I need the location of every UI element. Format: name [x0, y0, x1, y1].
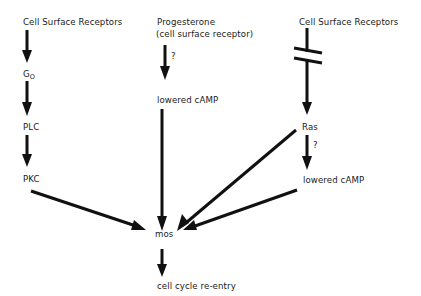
arrow-csr-to-go	[22, 30, 32, 63]
arrow-mos-to-cellcycle	[157, 249, 167, 277]
label-pkc: PKC	[23, 175, 40, 184]
arrow-pkc-to-mos	[31, 191, 146, 230]
label-progesterone: Progesterone	[157, 18, 215, 27]
arrow-camp-mid-to-mos	[157, 109, 167, 231]
label-lowered-camp-right: lowered cAMP	[303, 176, 364, 185]
arrow-progesterone-to-camp	[160, 45, 170, 80]
arrow-layer	[0, 0, 421, 296]
arrow-csr-right-to-ras-broken	[294, 28, 322, 115]
label-go-main: G	[23, 69, 30, 79]
question-mark-progesterone: ?	[171, 52, 176, 61]
question-mark-ras: ?	[313, 141, 318, 150]
label-lowered-camp-mid: lowered cAMP	[157, 96, 218, 105]
arrow-ras-to-camp-right	[302, 135, 312, 170]
arrow-go-to-plc	[22, 81, 32, 116]
label-csr-left: Cell Surface Receptors	[23, 18, 122, 27]
label-go-sub: O	[30, 73, 35, 81]
label-progesterone-sub: (cell surface receptor)	[156, 30, 253, 39]
arrow-plc-to-pkc	[22, 135, 32, 167]
label-plc: PLC	[23, 123, 39, 132]
label-csr-right: Cell Surface Receptors	[299, 18, 398, 27]
arrow-ras-to-mos	[177, 130, 296, 231]
label-go: GO	[23, 70, 35, 81]
pathway-diagram: Cell Surface Receptors Progesterone (cel…	[0, 0, 421, 296]
label-mos: mos	[155, 230, 173, 239]
label-cell-cycle-reentry: cell cycle re-entry	[157, 282, 236, 291]
label-ras: Ras	[302, 123, 318, 132]
